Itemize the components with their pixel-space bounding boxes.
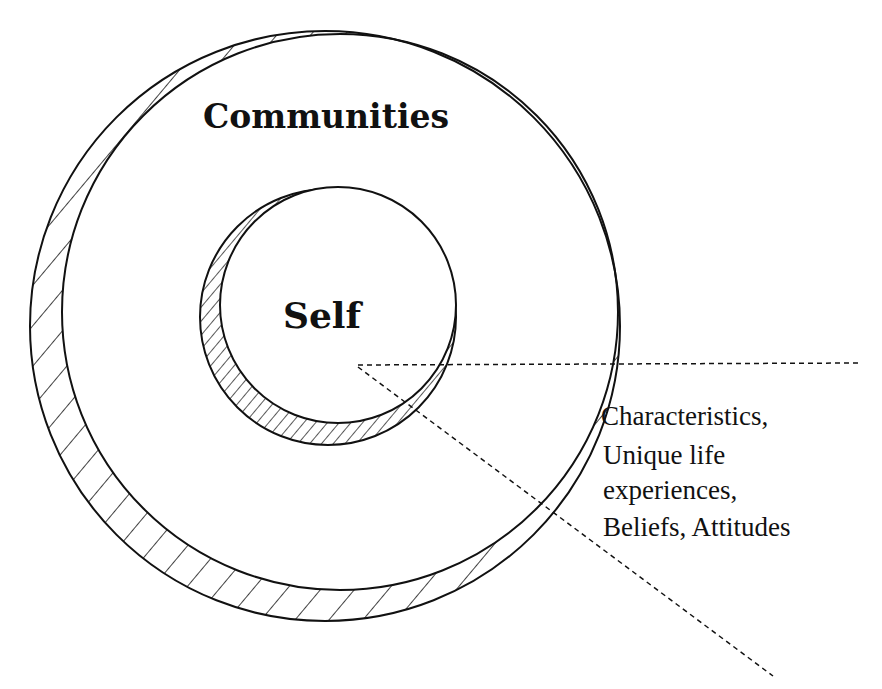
self-label: Self (283, 294, 364, 336)
annotation-line-2: Unique life (603, 440, 725, 470)
communities-label: Communities (203, 97, 449, 136)
annotation-line-4: Beliefs, Attitudes (603, 512, 790, 542)
annotation-line-1: Characteristics, (601, 401, 768, 431)
self-communities-diagram: Communities Self Characteristics, Unique… (0, 0, 882, 689)
annotation-line-3: experiences, (603, 475, 737, 505)
